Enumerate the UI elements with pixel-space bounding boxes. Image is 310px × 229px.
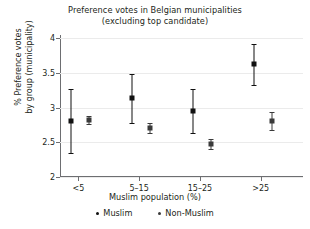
y-axis-title: % Preference votes by group (municipalit… — [13, 0, 37, 142]
data-point — [148, 126, 153, 131]
legend-item: Muslim — [96, 208, 132, 218]
data-point — [208, 142, 213, 147]
chart-title-line-1: Preference votes in Belgian municipaliti… — [0, 5, 310, 16]
y-tick-label: 3.5 — [42, 68, 55, 77]
x-tick-mark — [78, 177, 79, 181]
y-tick-mark — [56, 73, 60, 74]
legend-marker-icon — [96, 212, 99, 215]
chart-title-line-2: (excluding top candidate) — [0, 16, 310, 27]
x-tick-mark — [139, 177, 140, 181]
error-bar-cap — [87, 124, 92, 125]
chart-title: Preference votes in Belgian municipaliti… — [0, 5, 310, 27]
chart-legend: MuslimNon-Muslim — [0, 208, 310, 218]
data-point — [269, 119, 274, 124]
x-tick-mark — [200, 177, 201, 181]
x-axis-title: Muslim population (%) — [0, 192, 310, 202]
y-axis-line — [60, 35, 61, 177]
legend-label: Non-Muslim — [165, 208, 213, 218]
error-bar-cap — [190, 133, 195, 134]
gridline — [60, 73, 303, 74]
data-point — [87, 118, 92, 123]
data-point — [69, 118, 74, 123]
y-tick-label: 3 — [50, 103, 55, 112]
gridline — [60, 38, 303, 39]
plot-area: 22.533.54 <55–1515–25>25 — [60, 38, 303, 177]
error-bar-cap — [208, 149, 213, 150]
error-bar-cap — [208, 139, 213, 140]
error-bar-cap — [69, 89, 74, 90]
gridline — [60, 108, 303, 109]
data-point — [130, 96, 135, 101]
y-tick-label: 4 — [50, 34, 55, 43]
chart-figure: Preference votes in Belgian municipaliti… — [0, 0, 310, 229]
y-tick-label: 2 — [50, 173, 55, 182]
y-tick-mark — [56, 177, 60, 178]
gridline — [60, 142, 303, 143]
y-tick-mark — [56, 142, 60, 143]
error-bar-cap — [130, 123, 135, 124]
y-axis-title-line-2: by group (municipality) — [24, 0, 35, 142]
data-point — [190, 108, 195, 113]
error-bar-cap — [148, 133, 153, 134]
error-bar-cap — [251, 44, 256, 45]
error-bar-cap — [148, 123, 153, 124]
gridline — [60, 177, 303, 178]
legend-item: Non-Muslim — [158, 208, 213, 218]
x-tick-mark — [261, 177, 262, 181]
y-tick-label: 2.5 — [42, 138, 55, 147]
legend-label: Muslim — [103, 208, 132, 218]
error-bar-cap — [130, 74, 135, 75]
y-tick-mark — [56, 38, 60, 39]
error-bar-cap — [251, 85, 256, 86]
error-bar-cap — [269, 112, 274, 113]
legend-marker-icon — [158, 212, 161, 215]
error-bar-cap — [190, 89, 195, 90]
y-axis-title-line-1: % Preference votes — [13, 0, 24, 142]
error-bar-cap — [69, 153, 74, 154]
y-tick-mark — [56, 108, 60, 109]
error-bar-cap — [269, 130, 274, 131]
data-point — [251, 62, 256, 67]
